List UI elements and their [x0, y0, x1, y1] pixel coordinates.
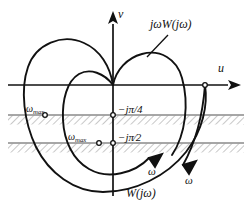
marker-omega-max-inner — [97, 141, 102, 146]
omega-max-inner-symbol: ω — [68, 131, 75, 142]
phase-level-label-pi-over-2: −jπ⁄2 — [118, 132, 141, 143]
phase-level-label-pi-over-4: −jπ/4 — [118, 104, 143, 115]
v-axis-label: v — [118, 8, 123, 20]
omega-max-label-inner: ωmax — [68, 132, 86, 142]
nyquist-plot-figure: v u jωW(jω) W(jω) −jπ/4 −jπ⁄2 ωmax ωmax … — [0, 0, 246, 211]
omega-max-inner-subscript: max — [75, 136, 86, 143]
marker-v-axis-pi-over-2 — [111, 141, 116, 146]
v-axis-arrowhead — [108, 11, 118, 24]
marker-v-axis-pi-over-4 — [111, 113, 116, 118]
curve-label-w-jw: W(jω) — [126, 187, 156, 199]
u-axis-arrowhead — [228, 80, 241, 90]
marker-u-axis-crossing — [203, 83, 208, 88]
omega-max-outer-symbol: ω — [26, 103, 33, 114]
curve-label-jw-w-jw: jωW(jω) — [150, 18, 192, 30]
u-axis-label: u — [218, 62, 224, 74]
omega-direction-label-outer: ω — [185, 175, 193, 186]
omega-direction-label-inner: ω — [148, 166, 156, 177]
omega-max-label-outer: ωmax — [26, 104, 44, 114]
hatched-band-lower — [8, 144, 244, 153]
omega-max-outer-subscript: max — [33, 108, 44, 115]
